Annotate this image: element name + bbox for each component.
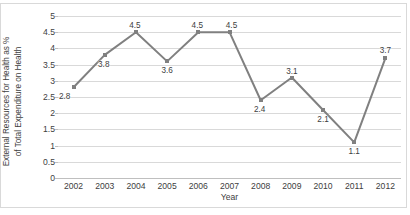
data-point-marker <box>290 76 294 80</box>
y-tick-label: 0 <box>31 173 55 183</box>
data-point-marker <box>134 30 138 34</box>
y-tick-label: 2 <box>31 108 55 118</box>
x-tick-label: 2007 <box>220 181 239 191</box>
y-tick-label: 5 <box>31 11 55 21</box>
data-point-label: 4.5 <box>129 21 140 30</box>
x-tick-label: 2005 <box>158 181 177 191</box>
y-tick-label: 3 <box>31 76 55 86</box>
data-point-marker <box>383 56 387 60</box>
x-tick-label: 2006 <box>189 181 208 191</box>
y-tick-label: 1 <box>31 141 55 151</box>
x-tick-label: 2010 <box>313 181 332 191</box>
data-point-label: 4.5 <box>192 21 203 30</box>
x-tick-label: 2004 <box>126 181 145 191</box>
y-axis-title: External Resources for Health as % of To… <box>1 12 24 192</box>
y-tick-label: 4.5 <box>31 27 55 37</box>
y-tick-label: 0.5 <box>31 157 55 167</box>
data-point-label: 3.6 <box>161 66 172 75</box>
y-axis-title-line-2: of Total Expenditure on Health <box>12 12 24 192</box>
y-tick-label: 3.5 <box>31 60 55 70</box>
chart-frame: External Resources for Health as % of To… <box>0 3 407 208</box>
data-point-label: 1.1 <box>349 147 360 156</box>
data-point-label: 2.8 <box>59 92 70 101</box>
x-tick-label: 2009 <box>282 181 301 191</box>
x-axis-line <box>58 178 401 179</box>
data-point-label: 2.4 <box>254 105 265 114</box>
y-tick-label: 2.5 <box>31 92 55 102</box>
x-tick-label: 2011 <box>345 181 363 191</box>
plot-area: 2.83.84.53.64.54.52.43.12.11.13.7 <box>58 16 401 178</box>
data-point-marker <box>103 53 107 57</box>
x-tick-label: 2008 <box>251 181 270 191</box>
x-tick-label: 2012 <box>376 181 395 191</box>
data-point-marker <box>165 59 169 63</box>
data-point-label: 3.8 <box>98 59 109 68</box>
y-tick-label: 1.5 <box>31 124 55 134</box>
data-point-marker <box>196 30 200 34</box>
data-point-label: 3.7 <box>380 46 391 55</box>
y-axis-title-line-1: External Resources for Health as % <box>1 12 13 192</box>
data-point-marker <box>228 30 232 34</box>
y-tick-label: 4 <box>31 43 55 53</box>
data-point-marker <box>321 108 325 112</box>
data-point-label: 3.1 <box>286 66 297 75</box>
x-tick-label: 2002 <box>64 181 83 191</box>
data-point-label: 2.1 <box>317 114 328 123</box>
chart-screenshot: External Resources for Health as % of To… <box>0 0 410 215</box>
data-point-marker <box>352 140 356 144</box>
series-line <box>74 32 386 142</box>
y-axis-tick-labels: 54.543.532.521.510.50 <box>29 16 55 178</box>
x-tick-label: 2003 <box>95 181 114 191</box>
data-point-label: 4.5 <box>226 21 237 30</box>
data-point-marker <box>72 85 76 89</box>
x-axis-title: Year <box>221 192 238 202</box>
data-point-marker <box>259 98 263 102</box>
